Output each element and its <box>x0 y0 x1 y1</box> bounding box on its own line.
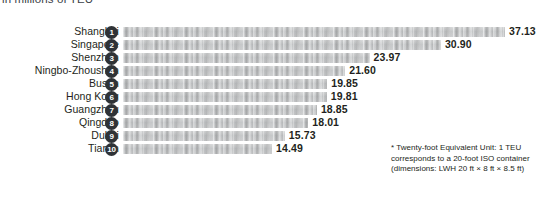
bar-category-label: Ningbo-Zhoushan <box>0 64 119 76</box>
bar-value-label: 19.81 <box>331 90 358 102</box>
bar-chart-plot: Shanghai137.13Singapore230.90Shenzhen323… <box>0 26 550 156</box>
rank-badge: 10 <box>105 143 118 156</box>
bar <box>123 131 285 141</box>
bar-value-label: 21.60 <box>349 64 376 76</box>
bar <box>123 79 327 89</box>
bar-value-label: 23.97 <box>374 51 401 63</box>
bar <box>123 40 441 50</box>
bar <box>123 118 308 128</box>
bar-category-label: Tianjin <box>0 142 119 154</box>
bar-category-label: Dubai <box>0 129 119 141</box>
bar-category-label: Shenzhen <box>0 51 119 63</box>
bar-value-label: 14.49 <box>276 142 303 154</box>
bar-value-label: 37.13 <box>509 25 536 37</box>
footnote-line-3: (dimensions: LWH 20 ft × 8 ft × 8.5 ft) <box>391 164 550 175</box>
bar <box>123 144 272 154</box>
bar-category-label: Hong Kong <box>0 90 119 102</box>
footnote-line-2: corresponds to a 20-foot ISO container <box>391 154 550 165</box>
bar-category-label: Guangzhou <box>0 103 119 115</box>
bar-category-label: Shanghai <box>0 25 119 37</box>
bar <box>123 27 505 37</box>
bar <box>123 53 370 63</box>
bar <box>123 66 345 76</box>
bar <box>123 92 327 102</box>
bar-category-label: Busan <box>0 77 119 89</box>
bar-value-label: 18.85 <box>321 103 348 115</box>
bar-value-label: 30.90 <box>445 38 472 50</box>
bar-category-label: Qingdao <box>0 116 119 128</box>
bar-value-label: 15.73 <box>289 129 316 141</box>
footnote-line-1: * Twenty-foot Equivalent Unit: 1 TEU <box>391 143 550 154</box>
bar <box>123 105 317 115</box>
bar-category-label: Singapore <box>0 38 119 50</box>
bar-value-label: 19.85 <box>331 77 358 89</box>
chart-subtitle: in millions of TEU <box>2 0 93 5</box>
chart-footnote: * Twenty-foot Equivalent Unit: 1 TEU cor… <box>391 143 550 175</box>
bar-value-label: 18.01 <box>312 116 339 128</box>
